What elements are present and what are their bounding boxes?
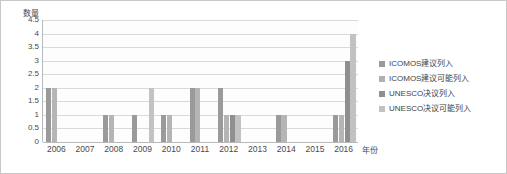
gridline xyxy=(43,88,358,89)
chart-container: 数量 4.543.532.521.510.50 2006200720082009… xyxy=(0,0,507,174)
y-tick-label: 2 xyxy=(7,84,39,92)
legend-item-label: UNESCO决议可能列入 xyxy=(389,105,471,113)
y-tick-label: 3.5 xyxy=(7,43,39,51)
x-tick-label: 2012 xyxy=(219,144,238,154)
bar xyxy=(230,115,235,142)
bar xyxy=(218,88,223,142)
x-axis-tick-labels: 2006200720082009201020112012201320142015… xyxy=(42,144,358,158)
bar xyxy=(161,115,166,142)
legend-item-label: ICOMOS建议可能列入 xyxy=(389,75,469,83)
x-tick-label: 2016 xyxy=(334,144,353,154)
x-tick-label: 2013 xyxy=(248,144,267,154)
bar xyxy=(195,88,200,142)
gridline xyxy=(43,142,358,143)
legend-item-label: UNESCO决议列入 xyxy=(389,90,455,98)
bar xyxy=(224,115,229,142)
gridline xyxy=(43,128,358,129)
legend-swatch-icon xyxy=(379,106,385,112)
bar xyxy=(281,115,286,142)
y-tick-label: 1 xyxy=(7,111,39,119)
chart-legend: ICOMOS建议列入ICOMOS建议可能列入UNESCO决议列入UNESCO决议… xyxy=(379,56,505,116)
gridline xyxy=(43,34,358,35)
bar xyxy=(276,115,281,142)
bar xyxy=(109,115,114,142)
y-tick-label: 4 xyxy=(7,30,39,38)
gridline xyxy=(43,61,358,62)
bar xyxy=(52,88,57,142)
gridline xyxy=(43,20,358,21)
gridline xyxy=(43,101,358,102)
legend-item[interactable]: UNESCO决议列入 xyxy=(379,86,505,101)
y-tick-label: 4.5 xyxy=(7,16,39,24)
x-tick-label: 2011 xyxy=(191,144,209,154)
bar xyxy=(333,115,338,142)
bar xyxy=(103,115,108,142)
y-tick-label: 3 xyxy=(7,57,39,65)
x-tick-label: 2007 xyxy=(76,144,95,154)
y-tick-label: 2.5 xyxy=(7,70,39,78)
legend-item[interactable]: ICOMOS建议列入 xyxy=(379,56,505,71)
plot-area xyxy=(42,20,358,142)
gridline xyxy=(43,47,358,48)
legend-swatch-icon xyxy=(379,61,385,67)
bar xyxy=(167,115,172,142)
legend-item-label: ICOMOS建议列入 xyxy=(389,60,453,68)
bar xyxy=(190,88,195,142)
legend-item[interactable]: UNESCO决议可能列入 xyxy=(379,101,505,116)
x-tick-label: 2015 xyxy=(305,144,324,154)
bar xyxy=(339,115,344,142)
x-tick-label: 2010 xyxy=(162,144,181,154)
legend-swatch-icon xyxy=(379,76,385,82)
y-tick-label: 1.5 xyxy=(7,97,39,105)
y-tick-label: 0.5 xyxy=(7,124,39,132)
x-tick-label: 2014 xyxy=(277,144,296,154)
x-tick-label: 2006 xyxy=(47,144,66,154)
bar xyxy=(149,88,154,142)
bar xyxy=(46,88,51,142)
bar xyxy=(235,115,240,142)
x-tick-label: 2009 xyxy=(133,144,152,154)
bar xyxy=(132,115,137,142)
y-tick-label: 0 xyxy=(7,138,39,146)
bar xyxy=(345,61,350,142)
x-axis-title: 年份 xyxy=(362,144,378,155)
y-axis-tick-labels: 4.543.532.521.510.50 xyxy=(5,20,39,142)
legend-item[interactable]: ICOMOS建议可能列入 xyxy=(379,71,505,86)
legend-swatch-icon xyxy=(379,91,385,97)
gridline xyxy=(43,74,358,75)
gridline xyxy=(43,115,358,116)
x-tick-label: 2008 xyxy=(104,144,123,154)
bar xyxy=(350,34,355,142)
